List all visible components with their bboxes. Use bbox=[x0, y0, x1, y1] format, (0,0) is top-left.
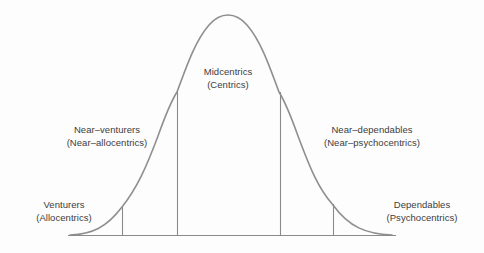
label-venturers: Venturers (Allocentrics) bbox=[16, 199, 112, 224]
label-near-dependables-secondary: (Near–psychocentrics) bbox=[302, 137, 442, 150]
label-venturers-secondary: (Allocentrics) bbox=[16, 212, 112, 225]
label-near-venturers-primary: Near–venturers bbox=[48, 124, 166, 137]
label-near-venturers: Near–venturers (Near–allocentrics) bbox=[48, 124, 166, 149]
label-midcentrics-secondary: (Centrics) bbox=[178, 79, 278, 92]
label-dependables: Dependables (Psychocentrics) bbox=[366, 199, 478, 224]
label-venturers-primary: Venturers bbox=[16, 199, 112, 212]
label-midcentrics-primary: Midcentrics bbox=[178, 66, 278, 79]
label-near-venturers-secondary: (Near–allocentrics) bbox=[48, 137, 166, 150]
label-dependables-secondary: (Psychocentrics) bbox=[366, 212, 478, 225]
psychographic-bell-curve-figure: Midcentrics (Centrics) Near–venturers (N… bbox=[0, 0, 484, 253]
label-dependables-primary: Dependables bbox=[366, 199, 478, 212]
label-midcentrics: Midcentrics (Centrics) bbox=[178, 66, 278, 91]
label-near-dependables-primary: Near–dependables bbox=[302, 124, 442, 137]
label-near-dependables: Near–dependables (Near–psychocentrics) bbox=[302, 124, 442, 149]
